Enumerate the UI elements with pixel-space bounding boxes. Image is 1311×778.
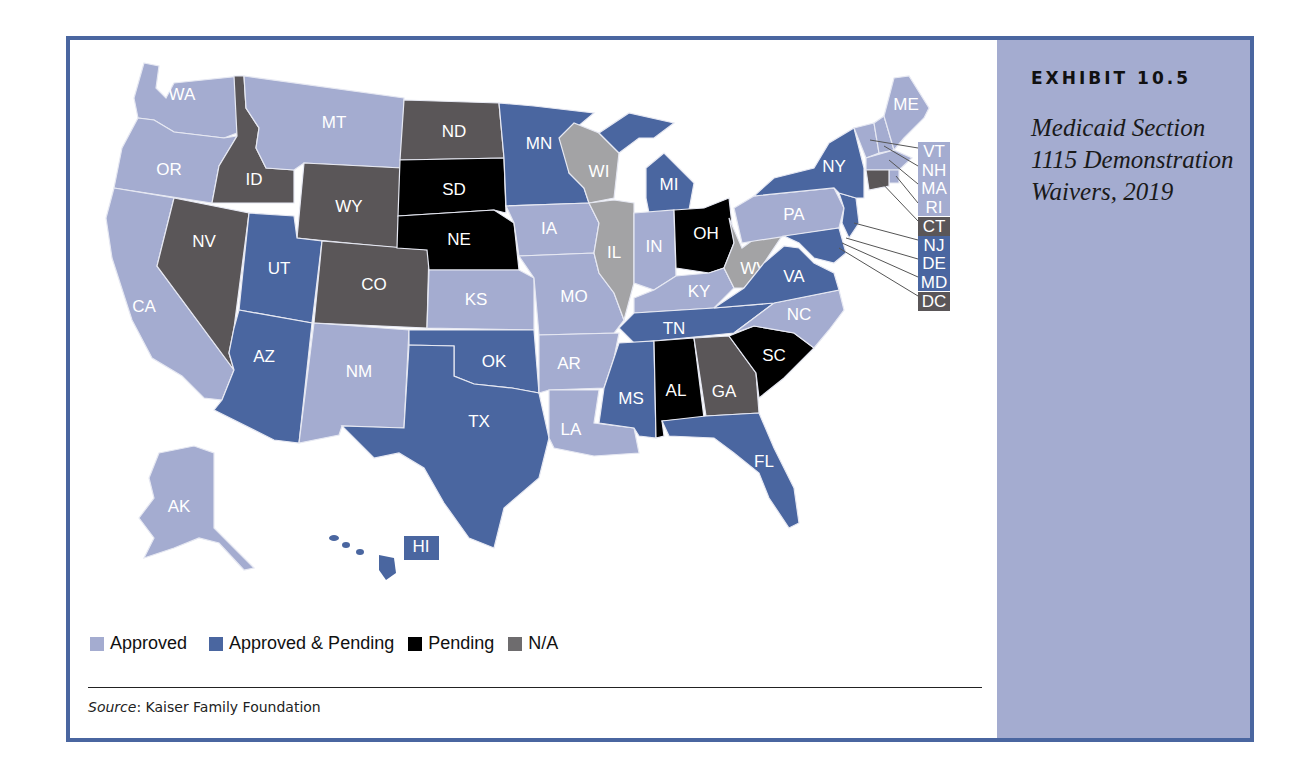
state-ny: NY — [754, 128, 864, 198]
svg-text:CO: CO — [361, 275, 387, 294]
legend-label: Approved — [110, 633, 187, 654]
state-wy: WY — [297, 163, 402, 248]
svg-text:NY: NY — [822, 157, 846, 176]
callout-de: DE — [918, 254, 950, 273]
state-oh: OH — [674, 198, 734, 273]
svg-text:SC: SC — [762, 346, 786, 365]
svg-text:IN: IN — [646, 237, 663, 256]
exhibit-number: EXHIBIT 10.5 — [1031, 68, 1191, 88]
svg-text:MO: MO — [560, 287, 587, 306]
callout-labels: VT NH MA RI CT NJ DE MD DC — [918, 142, 950, 311]
svg-text:WA: WA — [169, 85, 196, 104]
legend-item-approved-pending: Approved & Pending — [209, 633, 394, 654]
callout-md: MD — [918, 273, 950, 292]
state-ks: KS — [427, 270, 534, 330]
legend-label: Approved & Pending — [229, 633, 394, 654]
state-mt: MT — [244, 76, 404, 170]
state-me: ME — [884, 76, 929, 150]
svg-text:TX: TX — [468, 412, 490, 431]
legend-item-approved: Approved — [90, 633, 187, 654]
callout-nh: NH — [918, 161, 950, 180]
svg-text:LA: LA — [561, 420, 582, 439]
svg-text:VA: VA — [783, 267, 805, 286]
state-fl: FL — [662, 413, 799, 528]
exhibit-frame: WA OR CA ID NV MT WY — [66, 36, 1254, 742]
state-ri — [889, 170, 899, 183]
svg-text:NE: NE — [447, 230, 471, 249]
svg-text:WI: WI — [589, 162, 610, 181]
svg-text:AL: AL — [666, 381, 687, 400]
svg-text:AR: AR — [557, 354, 581, 373]
state-ia: IA — [506, 203, 599, 256]
callout-ri: RI — [918, 198, 950, 217]
callout-dc: DC — [918, 292, 950, 311]
state-nm: NM — [299, 323, 409, 443]
swatch-approved — [90, 637, 104, 651]
svg-text:IA: IA — [541, 219, 558, 238]
svg-text:ME: ME — [893, 95, 919, 114]
legend-label: N/A — [528, 633, 558, 654]
state-hi: HI — [329, 535, 439, 580]
callout-ma: MA — [918, 179, 950, 198]
svg-text:NC: NC — [787, 305, 812, 324]
exhibit-sidebar: EXHIBIT 10.5 Medicaid Section 1115 Demon… — [997, 40, 1250, 738]
source-prefix: Source — [88, 699, 136, 715]
svg-text:KY: KY — [688, 282, 711, 301]
svg-text:TN: TN — [663, 319, 686, 338]
svg-text:MS: MS — [618, 389, 644, 408]
svg-text:MI: MI — [660, 175, 679, 194]
source-text: : Kaiser Family Foundation — [136, 699, 320, 715]
svg-text:FL: FL — [754, 452, 774, 471]
svg-text:IL: IL — [607, 243, 621, 262]
state-co: CO — [314, 241, 429, 328]
callout-nj: NJ — [918, 236, 950, 255]
callout-ct: CT — [918, 217, 950, 236]
swatch-pending — [408, 637, 422, 651]
exhibit-title: Medicaid Section 1115 Demonstration Waiv… — [1031, 112, 1246, 208]
svg-text:ND: ND — [442, 122, 467, 141]
legend-label: Pending — [428, 633, 494, 654]
map-legend: Approved Approved & Pending Pending N/A — [90, 633, 572, 654]
svg-text:NM: NM — [346, 362, 372, 381]
state-sd: SD — [398, 158, 506, 216]
svg-text:HI: HI — [413, 537, 430, 556]
us-map: WA OR CA ID NV MT WY — [94, 58, 974, 618]
svg-text:UT: UT — [268, 259, 291, 278]
svg-text:OH: OH — [693, 224, 719, 243]
svg-text:MT: MT — [322, 113, 347, 132]
swatch-approved-pending — [209, 637, 223, 651]
svg-text:OR: OR — [156, 160, 182, 179]
svg-text:NV: NV — [192, 232, 216, 251]
legend-item-na: N/A — [508, 633, 558, 654]
source-note: Source: Kaiser Family Foundation — [88, 699, 321, 715]
state-in: IN — [634, 210, 676, 290]
svg-text:MN: MN — [526, 134, 552, 153]
svg-text:WY: WY — [335, 197, 362, 216]
svg-text:ID: ID — [246, 170, 263, 189]
callout-vt: VT — [918, 142, 950, 161]
state-nd: ND — [400, 100, 504, 160]
svg-text:AZ: AZ — [253, 347, 275, 366]
svg-text:OK: OK — [482, 352, 507, 371]
svg-text:PA: PA — [783, 205, 805, 224]
svg-text:CA: CA — [132, 297, 156, 316]
svg-text:KS: KS — [465, 290, 488, 309]
svg-text:SD: SD — [442, 180, 466, 199]
state-ak: AK — [139, 446, 254, 570]
svg-text:GA: GA — [712, 382, 737, 401]
source-divider — [88, 687, 982, 688]
legend-item-pending: Pending — [408, 633, 494, 654]
swatch-na — [508, 637, 522, 651]
svg-text:AK: AK — [168, 497, 191, 516]
